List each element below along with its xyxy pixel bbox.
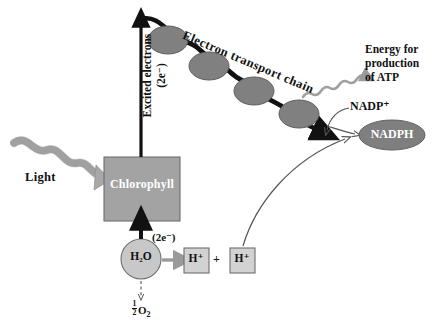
nadp-plus-label: NADP⁺ [350,100,390,113]
carrier-oval-4 [279,100,319,128]
oxygen-fraction-denominator: 2 [132,309,138,317]
oxygen-fraction: 1 2 [132,300,138,316]
electrons-from-water-label: (2e⁻) [152,231,176,243]
nadph-label: NADPH [363,128,421,141]
proton-to-nadph-arrow [243,139,345,246]
atp-energy-line3: of ATP [365,71,399,83]
excited-electrons-line2: (2e⁻) [155,63,167,88]
excited-electrons-line1: Excited electrons [141,34,153,118]
water-label: H₂O [124,250,158,263]
proton-label-1: H⁺ [185,252,207,265]
light-label: Light [25,170,56,184]
atp-energy-line2: production [365,57,419,69]
nadp-plus-text: NADP⁺ [350,99,390,113]
proton-label-2: H⁺ [231,252,253,265]
oxygen-label: 1 2 O2 [126,300,156,320]
excited-electrons-label: Excited electrons (2e⁻) [141,21,168,131]
photosynthesis-diagram: Light Chlorophyll Excited electrons (2e⁻… [0,0,436,328]
atp-energy-line1: Energy for [365,43,418,55]
oxygen-subscript: 2 [146,310,150,319]
atp-energy-label: Energy for production of ATP [365,42,419,84]
chlorophyll-label: Chlorophyll [108,178,176,191]
carrier-oval-3 [234,77,274,105]
plus-sign-label: + [213,253,220,266]
